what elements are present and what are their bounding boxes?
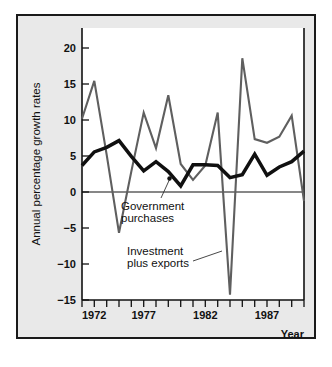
annotation-government-line2: purchases	[121, 212, 174, 224]
annotation-investment-line2: plus exports	[127, 257, 189, 269]
x-tick-label-1972: 1972	[82, 309, 106, 321]
y-tick-label-15: 15	[64, 78, 76, 90]
x-tick-label-1987: 1987	[255, 309, 279, 321]
chart-figure: 20 15 10 5 0 −5 −10 −15	[16, 14, 316, 339]
x-axis-title: Year	[281, 328, 305, 340]
line-chart: 20 15 10 5 0 −5 −10 −15	[18, 16, 318, 341]
y-axis-title: Annual percentage growth rates	[30, 82, 42, 245]
x-tick-label-1977: 1977	[131, 309, 155, 321]
x-tick-marks	[82, 300, 304, 307]
y-tick-label-neg10: −10	[57, 258, 76, 270]
y-tick-label-5: 5	[70, 150, 76, 162]
y-tick-label-0: 0	[70, 186, 76, 198]
x-tick-label-1982: 1982	[193, 309, 217, 321]
y-tick-label-neg5: −5	[63, 222, 76, 234]
annotation-government-line1: Government	[121, 200, 185, 212]
annotation-anchor-dot	[167, 176, 171, 180]
y-tick-label-neg15: −15	[57, 294, 76, 306]
annotation-investment-line1: Investment	[127, 245, 184, 257]
y-tick-label-10: 10	[64, 114, 76, 126]
y-tick-label-20: 20	[64, 42, 76, 54]
